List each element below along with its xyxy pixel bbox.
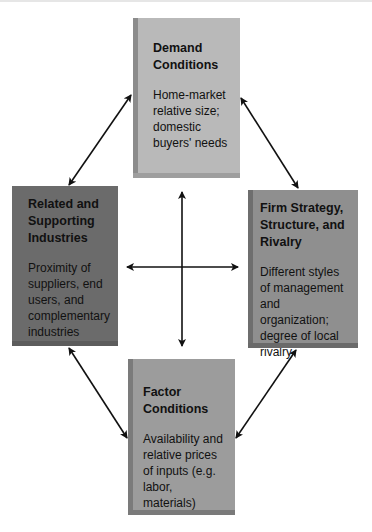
arrow-related-factor: [69, 348, 127, 438]
arrows-layer: [0, 0, 372, 532]
arrow-demand-firm: [241, 98, 298, 188]
arrow-firm-factor: [236, 350, 296, 438]
arrow-demand-related: [69, 95, 131, 185]
